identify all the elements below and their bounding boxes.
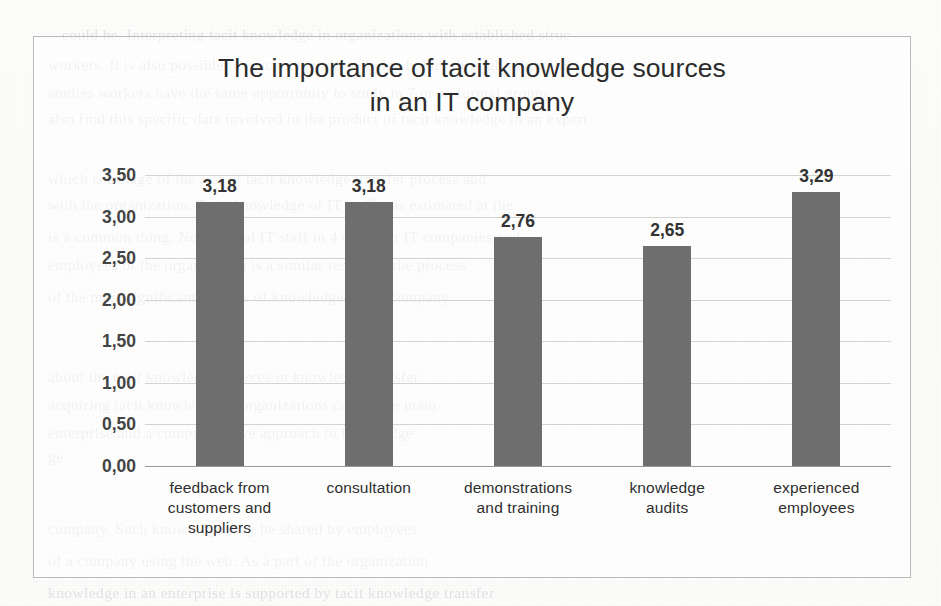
- category-label: consultation: [294, 478, 444, 498]
- y-axis-tick-label: 0,50: [102, 414, 136, 435]
- bleed-through-line: knowledge in an enterprise is supported …: [48, 584, 494, 602]
- y-axis-tick-label: 3,50: [102, 165, 136, 186]
- category-label: demonstrationsand training: [443, 478, 593, 518]
- chart-title: The importance of tacit knowledge source…: [34, 51, 910, 119]
- plot-area: 3,183,182,762,653,29 feedback fromcustom…: [145, 175, 891, 466]
- category-label-line: suppliers: [145, 518, 295, 538]
- category-label-line: and training: [443, 498, 593, 518]
- bar-slot: 3,18: [294, 175, 443, 466]
- category-label-line: audits: [592, 498, 742, 518]
- category-label-line: demonstrations: [443, 478, 593, 498]
- category-label-line: experienced: [741, 478, 891, 498]
- category-label: feedback fromcustomers andsuppliers: [145, 478, 295, 538]
- bar[interactable]: [792, 192, 840, 466]
- bar[interactable]: [494, 237, 542, 466]
- chart-frame: The importance of tacit knowledge source…: [33, 36, 911, 578]
- bar[interactable]: [196, 202, 244, 466]
- y-axis-tick-label: 1,50: [102, 331, 136, 352]
- x-axis-line: [145, 466, 891, 467]
- y-axis-tick-labels: 3,503,002,502,001,501,000,500,00: [70, 175, 136, 466]
- bar-slot: 2,65: [593, 175, 742, 466]
- y-axis-tick-label: 2,50: [102, 248, 136, 269]
- chart-title-line-1: The importance of tacit knowledge source…: [34, 51, 910, 85]
- bar-value-label: 3,18: [352, 176, 386, 197]
- y-axis-tick-label: 2,00: [102, 289, 136, 310]
- category-label: experiencedemployees: [741, 478, 891, 518]
- bar[interactable]: [643, 246, 691, 466]
- y-axis-tick-label: 3,00: [102, 206, 136, 227]
- category-label-line: consultation: [294, 478, 444, 498]
- category-label-line: employees: [741, 498, 891, 518]
- bar-value-label: 3,18: [203, 176, 237, 197]
- bar-slot: 3,29: [742, 175, 891, 466]
- bar-slot: 3,18: [145, 175, 294, 466]
- category-label-line: customers and: [145, 498, 295, 518]
- scanned-page: could be. Interpreting tacit knowledge i…: [0, 0, 941, 606]
- bar-value-label: 2,76: [501, 211, 535, 232]
- y-axis-tick-label: 0,00: [102, 456, 136, 477]
- category-label: knowledgeaudits: [592, 478, 742, 518]
- bar[interactable]: [345, 202, 393, 466]
- category-label-line: knowledge: [592, 478, 742, 498]
- bar-slot: 2,76: [443, 175, 592, 466]
- bar-value-label: 2,65: [650, 220, 684, 241]
- category-label-line: feedback from: [145, 478, 295, 498]
- bar-value-label: 3,29: [799, 166, 833, 187]
- chart-title-line-2: in an IT company: [34, 85, 910, 119]
- y-axis-tick-label: 1,00: [102, 372, 136, 393]
